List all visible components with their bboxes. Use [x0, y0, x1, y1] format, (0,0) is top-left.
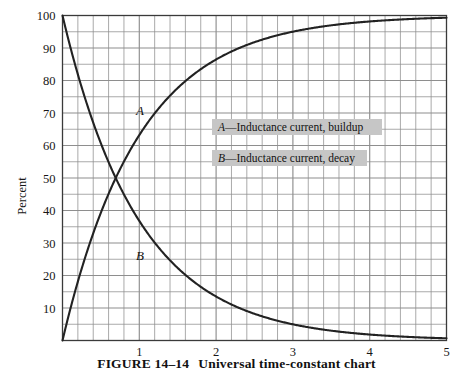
legend-b-label: Inductance current, decay	[237, 152, 356, 165]
legend: A—Inductance current, buildup B—Inductan…	[212, 119, 382, 166]
legend-b-key: B	[218, 152, 225, 164]
caption-prefix: FIGURE 14–14	[97, 356, 189, 371]
y-tick-label: 90	[43, 42, 56, 56]
y-tick-label: 80	[43, 74, 56, 88]
y-tick-label: 50	[43, 172, 56, 186]
legend-b-text: B—Inductance current, decay	[218, 152, 355, 165]
y-tick-label: 70	[43, 107, 56, 121]
legend-b-dash: —	[224, 152, 237, 164]
legend-a-text: A—Inductance current, buildup	[217, 121, 364, 134]
y-tick-label: 20	[43, 269, 56, 283]
curve-a-label: A	[135, 103, 144, 118]
y-tick-label: 60	[43, 139, 56, 153]
legend-a-dash: —	[224, 121, 237, 133]
universal-time-constant-chart: 102030405060708090100 12345 Percent A B …	[0, 0, 473, 388]
y-tick-label: 30	[43, 237, 56, 251]
y-tick-label: 10	[43, 302, 56, 316]
y-tick-label: 100	[37, 9, 56, 23]
y-tick-label: 40	[43, 204, 56, 218]
curve-b-label: B	[136, 248, 144, 263]
legend-entry-b: B—Inductance current, decay	[212, 150, 367, 166]
y-axis-title: Percent	[15, 177, 29, 215]
y-tick-labels: 102030405060708090100	[37, 9, 56, 316]
legend-entry-a: A—Inductance current, buildup	[212, 119, 382, 135]
figure-container: 102030405060708090100 12345 Percent A B …	[0, 0, 473, 388]
figure-caption: FIGURE 14–14Universal time-constant char…	[0, 356, 473, 372]
legend-a-label: Inductance current, buildup	[237, 121, 364, 134]
grid-major-horizontal	[63, 48, 447, 308]
caption-title: Universal time-constant chart	[198, 356, 376, 371]
